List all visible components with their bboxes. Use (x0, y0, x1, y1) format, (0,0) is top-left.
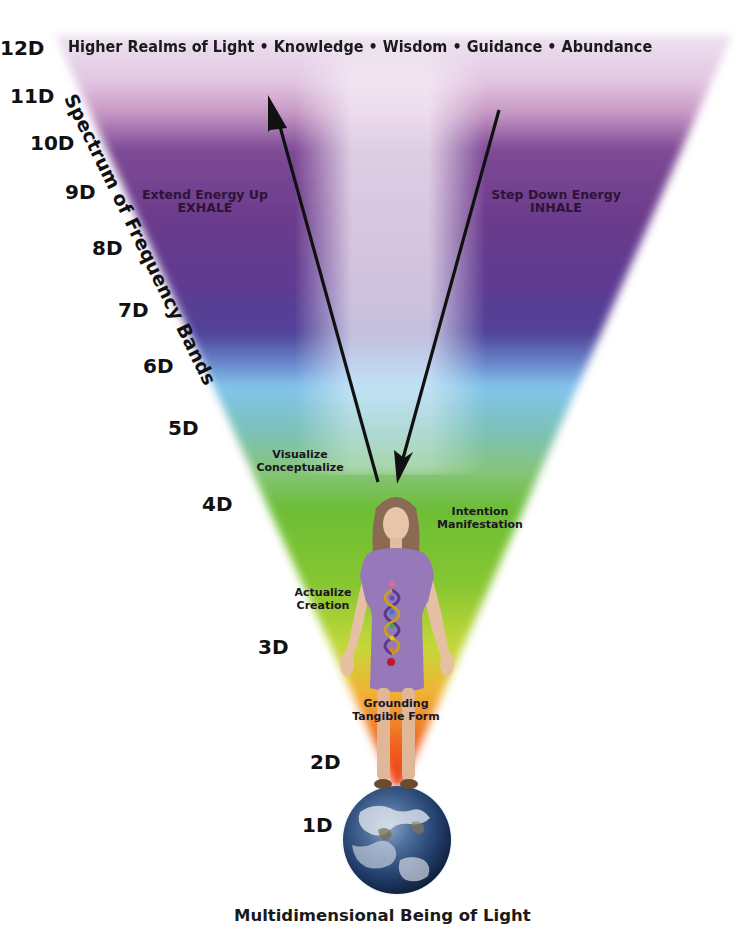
visualize-caption: Visualize Conceptualize (250, 448, 350, 474)
dimension-label-8d: 8D (92, 236, 123, 260)
inhale-caption-line2: INHALE (484, 201, 628, 214)
grounding-caption: Grounding Tangible Form (346, 697, 446, 723)
actualize-caption: Actualize Creation (288, 586, 358, 612)
exhale-caption: Extend Energy Up EXHALE (130, 188, 280, 214)
dimension-label-4d: 4D (202, 492, 233, 516)
bottom-title: Multidimensional Being of Light (234, 906, 531, 925)
dimension-label-10d: 10D (30, 131, 74, 155)
dimension-label-2d: 2D (310, 750, 341, 774)
dimension-label-11d: 11D (10, 84, 54, 108)
visualize-line2: Conceptualize (250, 461, 350, 474)
grounding-line1: Grounding (346, 697, 446, 710)
dimension-label-6d: 6D (143, 354, 174, 378)
frequency-spectrum-diagram: Higher Realms of Light • Knowledge • Wis… (0, 0, 741, 942)
dimension-label-7d: 7D (118, 298, 149, 322)
exhale-caption-line2: EXHALE (130, 201, 280, 214)
actualize-line1: Actualize (288, 586, 358, 599)
spectrum-triangle (0, 0, 741, 942)
intention-line1: Intention (430, 505, 530, 518)
intention-line2: Manifestation (430, 518, 530, 531)
dimension-label-9d: 9D (65, 180, 96, 204)
dimension-label-5d: 5D (168, 416, 199, 440)
dimension-label-3d: 3D (258, 635, 289, 659)
inhale-caption: Step Down Energy INHALE (484, 188, 628, 214)
actualize-line2: Creation (288, 599, 358, 612)
top-title: Higher Realms of Light • Knowledge • Wis… (68, 38, 652, 56)
dimension-label-1d: 1D (302, 813, 333, 837)
visualize-line1: Visualize (250, 448, 350, 461)
intention-caption: Intention Manifestation (430, 505, 530, 531)
earth-globe-icon (339, 782, 455, 898)
grounding-line2: Tangible Form (346, 710, 446, 723)
dimension-label-12d: 12D (0, 36, 44, 60)
